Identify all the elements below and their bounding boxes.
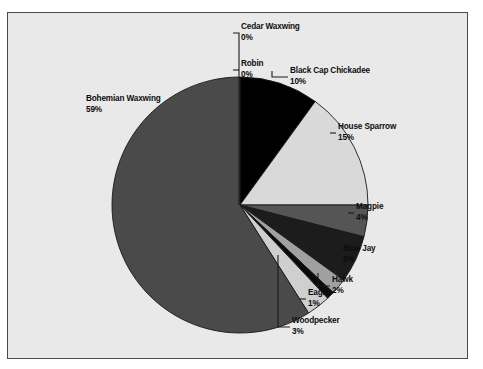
leader-black-cap-chickadee xyxy=(272,71,288,77)
pie-label-house-sparrow-name: House Sparrow xyxy=(338,122,396,131)
pie-label-blue-jay: Blue Jay 6% xyxy=(343,244,375,265)
pie-label-bohemian-waxwing-value: 59% xyxy=(86,105,161,116)
pie-label-robin-value: 0% xyxy=(241,70,263,81)
pie-label-woodpecker-name: Woodpecker xyxy=(292,316,340,325)
pie-label-bohemian-waxwing-name: Bohemian Waxwing xyxy=(86,94,161,103)
pie-label-cedar-waxwing-value: 0% xyxy=(241,33,300,44)
pie-label-bohemian-waxwing: Bohemian Waxwing 59% xyxy=(86,94,161,115)
pie-label-robin-name: Robin xyxy=(241,59,263,68)
pie-label-hawk: Hawk 2% xyxy=(332,275,353,296)
pie-label-hawk-value: 2% xyxy=(332,286,353,297)
pie-label-woodpecker-value: 3% xyxy=(292,327,340,338)
pie-label-house-sparrow: House Sparrow 15% xyxy=(338,122,396,143)
pie-label-black-cap-chickadee-name: Black Cap Chickadee xyxy=(290,66,370,75)
pie-label-robin: Robin 0% xyxy=(241,59,263,80)
pie-label-eagle-value: 1% xyxy=(308,299,329,310)
pie-label-magpie: Magpie 4% xyxy=(356,202,383,223)
pie-label-hawk-name: Hawk xyxy=(332,275,353,284)
pie-label-eagle-name: Eagle xyxy=(308,288,329,297)
pie-chart-canvas xyxy=(0,0,483,369)
pie-label-cedar-waxwing: Cedar Waxwing 0% xyxy=(241,22,300,43)
pie-label-magpie-value: 4% xyxy=(356,213,383,224)
pie-label-blue-jay-value: 6% xyxy=(343,255,375,266)
pie-label-cedar-waxwing-name: Cedar Waxwing xyxy=(241,22,300,31)
pie-label-woodpecker: Woodpecker 3% xyxy=(292,316,340,337)
pie-label-black-cap-chickadee-value: 10% xyxy=(290,77,370,88)
pie-label-house-sparrow-value: 15% xyxy=(338,133,396,144)
pie-label-black-cap-chickadee: Black Cap Chickadee 10% xyxy=(290,66,370,87)
pie-label-eagle: Eagle 1% xyxy=(308,288,329,309)
pie-label-blue-jay-name: Blue Jay xyxy=(343,244,375,253)
pie-label-magpie-name: Magpie xyxy=(356,202,383,211)
pie-slices xyxy=(112,77,368,333)
